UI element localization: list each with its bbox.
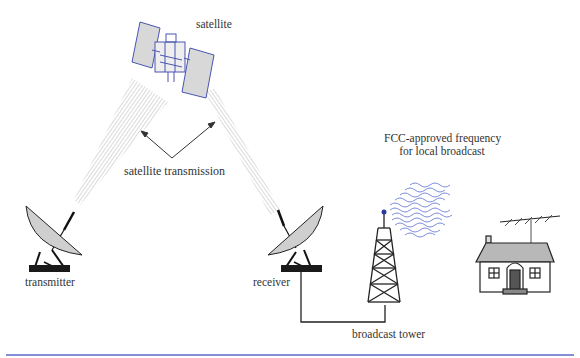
transmission-arrows: [141, 122, 215, 158]
downlink-beam: [205, 88, 280, 215]
broadcast-tower-label: broadcast tower: [352, 328, 425, 340]
house-icon: [476, 215, 560, 294]
satellite-transmission-label: satellite transmission: [124, 164, 225, 179]
fcc-frequency-label: FCC-approved frequency for local broadca…: [384, 132, 500, 158]
receiver-dish-icon: [268, 206, 323, 272]
receiver-label: receiver: [253, 276, 290, 288]
cable-line: [301, 272, 385, 322]
satellite-label: satellite: [196, 18, 232, 30]
radio-waves-icon: [390, 183, 452, 237]
uplink-beam: [74, 78, 168, 205]
fcc-label-line2: for local broadcast: [384, 145, 500, 158]
transmitter-label: transmitter: [25, 276, 75, 288]
fcc-label-line1: FCC-approved frequency: [384, 132, 500, 145]
transmitter-dish-icon: [26, 206, 82, 272]
diagram-canvas: [0, 0, 580, 358]
broadcast-tower-icon: [368, 210, 400, 303]
